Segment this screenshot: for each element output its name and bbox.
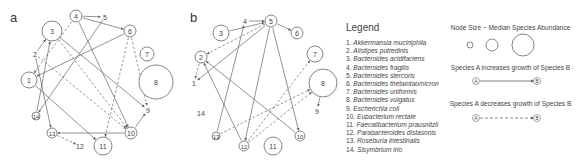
species-name: Escherichia coli (353, 105, 399, 112)
species-name: Bacteroides acidifaciens (353, 55, 424, 62)
node-7: 7 (140, 47, 154, 61)
species-name: Akkermansia muciniphila (353, 39, 426, 46)
legend-key: Node Size ~ Median Species Abundance Spe… (440, 0, 581, 162)
species-number: 14. (346, 146, 357, 153)
node-9: 9 (146, 107, 150, 114)
decrease-caption: Species A decreases growth of Species B (440, 100, 581, 107)
edge-decrease-2-1 (195, 64, 199, 78)
species-name: Eubacterium rectale (357, 113, 416, 120)
legend-species-item: 1. Akkermansia muciniphila (346, 39, 439, 47)
legend: Legend 1. Akkermansia muciniphila2. Alis… (346, 22, 439, 154)
node-6: 6 (291, 27, 303, 39)
svg-text:11: 11 (269, 143, 276, 150)
legend-species-item: 12. Parabacteroides distasonis (346, 129, 439, 137)
species-name: Bacteroides fragilis (353, 64, 409, 71)
edge-increase-5-1 (198, 25, 265, 79)
edge-decrease-13-8 (220, 90, 309, 134)
species-name: Bacteroides thetaiotaomicron (353, 80, 438, 87)
node-2: 2 (33, 51, 37, 58)
edge-increase-4-10 (79, 22, 128, 126)
svg-text:11: 11 (99, 143, 106, 150)
edge-decrease-6-11 (105, 38, 128, 136)
svg-text:9: 9 (146, 107, 150, 114)
svg-text:9: 9 (315, 108, 319, 115)
species-name: Bacteroides stercoris (353, 72, 415, 79)
edge-increase-5-10 (273, 28, 299, 130)
node-3: 3 (213, 25, 229, 41)
svg-text:5: 5 (269, 18, 273, 25)
svg-text:13: 13 (213, 134, 220, 140)
svg-text:2: 2 (33, 51, 37, 58)
legend-species-item: 8. Bacteroides vulgatus (346, 96, 439, 104)
panel-b-label: b (190, 10, 197, 25)
species-name: Alistipes putredinis (353, 47, 408, 54)
edge-increase-5-6 (277, 24, 290, 30)
edge-increase-1-11 (36, 86, 95, 139)
edge-decrease-13-12 (57, 136, 75, 144)
svg-text:10: 10 (127, 130, 135, 137)
svg-text:14: 14 (33, 114, 40, 120)
node-1: 1 (21, 72, 37, 88)
edge-increase-13-4 (217, 26, 243, 131)
svg-text:6: 6 (295, 30, 299, 37)
node-7: 7 (307, 46, 323, 62)
species-number: 11. (346, 121, 357, 128)
node-14: 14 (197, 110, 205, 117)
edge-increase-5-12 (245, 28, 269, 140)
edge-increase-3-9 (60, 38, 143, 107)
node-13: 13 (47, 128, 57, 138)
node-8: 8 (139, 65, 173, 99)
svg-text:12: 12 (76, 143, 84, 150)
node-5: 5 (103, 14, 107, 21)
legend-species-item: 3. Bacteroides acidifaciens (346, 55, 439, 63)
network-graph-b: 1234567891011121314 (192, 15, 337, 155)
node-3: 3 (42, 21, 62, 41)
node-11: 11 (94, 137, 112, 155)
species-number: 10. (346, 113, 357, 120)
svg-text:7: 7 (313, 51, 317, 58)
svg-text:3: 3 (50, 28, 54, 35)
node-6: 6 (124, 25, 136, 37)
edge-decrease-3-10 (59, 40, 127, 127)
species-name: Roseburia intestinalis (357, 137, 420, 144)
edge-increase-8-9 (318, 98, 320, 106)
legend-species-item: 7. Bacteroides uniformis (346, 88, 439, 96)
node-10: 10 (295, 131, 305, 141)
legend-title: Legend (346, 22, 439, 33)
svg-text:4: 4 (243, 18, 247, 25)
legend-species-item: 11. Faecalibacterium prausnitzii (346, 121, 439, 129)
node-9: 9 (315, 108, 319, 115)
species-name: Faecalibacterium prausnitzii (357, 121, 439, 128)
node-13: 13 (212, 132, 220, 140)
svg-text:1: 1 (192, 80, 196, 87)
network-graph-a: 1234567891011121314 (21, 10, 173, 155)
species-number: 13. (346, 137, 357, 144)
legend-species-item: 6. Bacteroides thetaiotaomicron (346, 80, 439, 88)
legend-species-item: 9. Escherichia coli (346, 105, 439, 113)
node-10: 10 (125, 127, 137, 139)
edge-increase-12-2 (204, 64, 241, 141)
svg-text:8: 8 (154, 79, 158, 86)
svg-text:6: 6 (128, 28, 132, 35)
svg-text:14: 14 (197, 110, 205, 117)
node-1: 1 (192, 80, 196, 87)
edge-increase-2-3 (37, 40, 45, 51)
node-12: 12 (239, 141, 249, 151)
svg-text:7: 7 (145, 51, 149, 58)
panel-a-label: a (10, 10, 17, 25)
species-list: 1. Akkermansia muciniphila2. Alistipes p… (346, 39, 439, 154)
svg-text:3: 3 (219, 30, 223, 37)
node-4: 4 (70, 10, 82, 22)
node-8: 8 (309, 69, 337, 97)
svg-text:5: 5 (103, 14, 107, 21)
species-name: Bacteroides vulgatus (353, 96, 414, 103)
node-11: 11 (264, 137, 282, 155)
node-4: 4 (243, 18, 247, 25)
node-12: 12 (76, 143, 84, 150)
legend-species-item: 10. Eubacterium rectale (346, 113, 439, 121)
svg-text:4: 4 (74, 13, 78, 20)
svg-text:12: 12 (241, 144, 248, 150)
species-name: Parabacteroides distasonis (357, 129, 436, 136)
edge-increase-4-5 (83, 16, 100, 17)
node-size-caption: Node Size ~ Median Species Abundance (440, 24, 581, 31)
